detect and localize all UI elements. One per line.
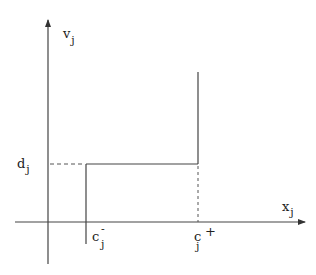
- d-label: dj: [17, 156, 30, 176]
- x-axis-label: xj: [282, 199, 294, 219]
- diagram-canvas: vj xj dj c - j c + j: [0, 0, 316, 275]
- c-minus-sub: j: [99, 238, 104, 251]
- c-minus-label: c: [92, 229, 99, 244]
- y-axis-label: vj: [62, 26, 75, 47]
- c-minus-sup: -: [101, 223, 105, 236]
- c-plus-sup: +: [205, 224, 216, 239]
